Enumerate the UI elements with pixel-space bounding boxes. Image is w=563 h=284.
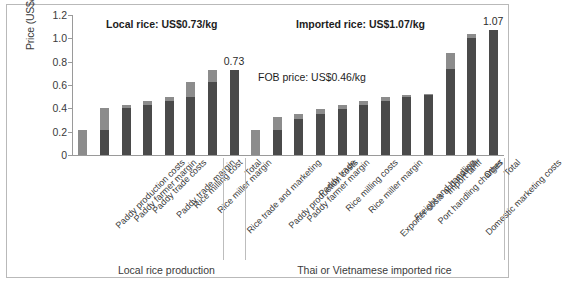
bar [186,82,195,155]
bar: 1.07 [489,30,498,155]
bar [251,130,260,155]
bar-segment-increment [78,130,87,155]
y-tick-mark [68,38,72,39]
bar-segment-increment [230,70,239,155]
plot-area: 00.20.40.60.81.01.20.731.07 [72,15,504,155]
bar-segment-increment [100,108,109,130]
bar-segment-base [186,97,195,155]
group-separator [223,158,224,260]
bar-segment-base [359,105,368,155]
bar [100,108,109,155]
y-tick-mark [68,132,72,133]
bar-segment-increment [186,82,195,97]
bar [316,109,325,155]
bar-segment-increment [251,130,260,155]
bar [467,34,476,155]
y-tick-label: 0.4 [52,102,67,114]
bar [78,130,87,155]
bar [381,97,390,155]
group-separator [245,158,246,260]
bar [359,101,368,155]
bar: 0.73 [230,70,239,155]
annotation-local-rice-total: Local rice: US$0.73/kg [106,18,217,30]
x-category-label: Other [482,158,504,180]
bar-segment-increment [273,117,282,130]
bar-segment-increment [446,53,455,69]
bar-segment-base [424,95,433,155]
x-axis-line [72,155,504,156]
bar-segment-base [143,105,152,155]
bar-value-label: 0.73 [224,55,244,67]
y-tick-mark [68,155,72,156]
annotation-imported-rice-total: Imported rice: US$1.07/kg [296,18,425,30]
y-tick-mark [68,15,72,16]
bar [446,53,455,155]
y-tick-label: 0.6 [52,79,67,91]
bar-segment-base [316,114,325,155]
y-tick-label: 0.8 [52,56,67,68]
bar [273,117,282,155]
y-tick-label: 1.2 [52,9,67,21]
y-tick-label: 0 [61,149,67,161]
bar-segment-base [273,130,282,155]
bar-segment-base [100,130,109,155]
bar-segment-base [294,119,303,155]
y-axis-line [72,15,73,156]
bar-segment-base [446,69,455,155]
bar-segment-base [338,109,347,155]
bar [338,105,347,155]
bar [294,114,303,155]
y-tick-mark [68,108,72,109]
y-tick-mark [68,62,72,63]
y-tick-label: 1.0 [52,32,67,44]
bar [122,105,131,155]
bar-value-label: 1.07 [483,15,503,27]
group-label: Local rice production [118,264,215,276]
y-tick-label: 0.2 [52,126,67,138]
group-label: Thai or Vietnamese imported rice [297,264,451,276]
group-separator [504,158,505,260]
y-axis-title: Price (US$/kg) [24,0,36,50]
annotation-fob-price: FOB price: US$0.46/kg [258,71,366,83]
y-tick-mark [68,85,72,86]
bar-segment-base [165,101,174,155]
category-label-layer: Paddy production costsPaddy farmer margi… [72,158,504,240]
bar-segment-base [208,82,217,155]
bar [402,95,411,155]
bar-segment-base [467,38,476,155]
bar [424,94,433,155]
bar-segment-base [122,108,131,155]
bar-segment-base [381,101,390,155]
bar [165,97,174,155]
bar [143,101,152,155]
bar-segment-increment [208,70,217,82]
bar-segment-base [402,97,411,155]
bar [208,70,217,155]
bar-segment-increment [489,30,498,155]
